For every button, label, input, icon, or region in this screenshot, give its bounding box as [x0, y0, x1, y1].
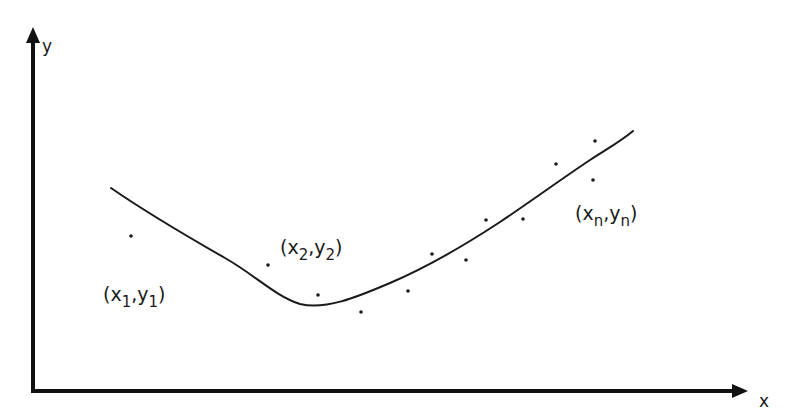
data-point [129, 234, 133, 238]
x-var: x [582, 202, 593, 224]
data-point [266, 263, 270, 267]
fitted-curve [111, 131, 633, 306]
paren-close: ) [630, 202, 637, 224]
y-subscript: 2 [326, 246, 336, 264]
y-var: y [609, 202, 620, 224]
x-var: x [287, 236, 298, 258]
x-axis-label: x [759, 393, 769, 410]
y-subscript: 1 [149, 293, 159, 311]
data-point [554, 162, 558, 166]
data-point [316, 293, 320, 297]
y-axis-label: y [42, 38, 52, 55]
data-point [359, 310, 363, 314]
y-var: y [137, 283, 148, 305]
y-var: y [314, 236, 325, 258]
point-label-nth: (xn,yn) [575, 204, 637, 229]
data-point [406, 289, 410, 293]
x-subscript: 2 [299, 246, 309, 264]
x-subscript: n [594, 212, 604, 230]
x-subscript: 1 [122, 293, 132, 311]
point-label-second: (x2,y2) [280, 238, 342, 263]
data-point [521, 217, 525, 221]
x-axis-arrow-icon [732, 384, 748, 398]
paren-close: ) [158, 283, 165, 305]
paren-close: ) [335, 236, 342, 258]
data-points [129, 139, 597, 314]
y-axis-arrow-icon [26, 27, 40, 43]
y-subscript: n [620, 212, 630, 230]
data-point [464, 258, 468, 262]
data-point [484, 218, 488, 222]
data-point [593, 139, 597, 143]
data-point [430, 252, 434, 256]
point-label-first: (x1,y1) [103, 285, 165, 310]
curve-fit-diagram [0, 0, 785, 419]
data-point [591, 178, 595, 182]
x-var: x [110, 283, 121, 305]
